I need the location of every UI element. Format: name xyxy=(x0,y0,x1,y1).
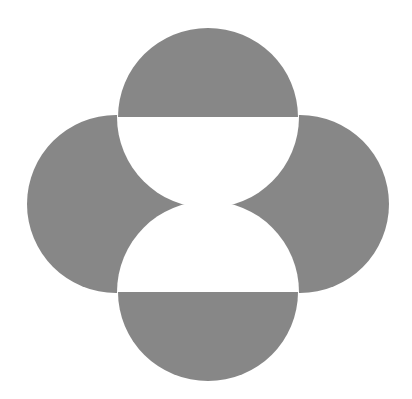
logo-emblem xyxy=(0,0,412,399)
